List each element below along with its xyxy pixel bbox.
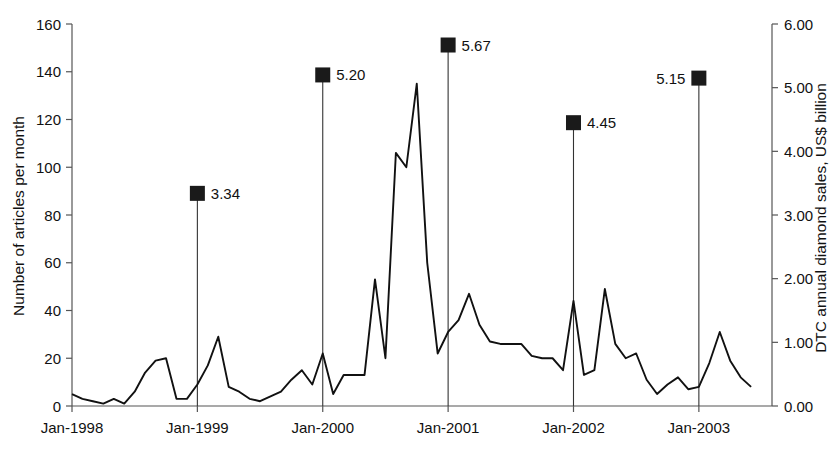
dtc-square-marker xyxy=(441,38,456,53)
right-tick-label: 4.00 xyxy=(784,143,813,160)
articles-per-month-line xyxy=(72,84,751,404)
left-axis-title: Number of articles per month xyxy=(10,116,27,316)
dtc-value-label: 3.34 xyxy=(211,185,240,202)
chart-figure: 020406080100120140160 0.001.002.003.004.… xyxy=(0,0,840,464)
dtc-value-label: 5.20 xyxy=(336,66,365,83)
left-tick-label: 140 xyxy=(36,63,61,80)
dtc-square-marker xyxy=(691,71,706,86)
x-tick-label: Jan-2003 xyxy=(668,419,731,436)
dtc-square-marker xyxy=(566,115,581,130)
x-axis-tick-labels: Jan-1998Jan-1999Jan-2000Jan-2001Jan-2002… xyxy=(41,406,730,436)
left-tick-label: 60 xyxy=(44,254,61,271)
dtc-sales-drop-lines xyxy=(197,45,698,406)
dtc-value-label: 4.45 xyxy=(587,114,616,131)
right-tick-label: 1.00 xyxy=(784,334,813,351)
left-tick-label: 80 xyxy=(44,207,61,224)
dtc-value-label: 5.15 xyxy=(656,70,685,87)
right-axis-title: DTC annual diamond sales, US$ billion xyxy=(812,83,829,353)
cropped-caption-remnant xyxy=(0,0,840,6)
x-tick-label: Jan-2002 xyxy=(542,419,605,436)
left-tick-label: 40 xyxy=(44,302,61,319)
left-axis-ticks: 020406080100120140160 xyxy=(36,16,72,415)
right-tick-label: 3.00 xyxy=(784,207,813,224)
x-tick-label: Jan-1998 xyxy=(41,419,104,436)
left-tick-label: 100 xyxy=(36,159,61,176)
dtc-square-marker xyxy=(190,186,205,201)
x-tick-label: Jan-2001 xyxy=(417,419,480,436)
left-tick-label: 20 xyxy=(44,350,61,367)
right-tick-label: 2.00 xyxy=(784,270,813,287)
left-tick-label: 120 xyxy=(36,111,61,128)
dtc-value-label: 5.67 xyxy=(462,37,491,54)
articles-polyline xyxy=(72,84,751,404)
line-chart-canvas: 020406080100120140160 0.001.002.003.004.… xyxy=(0,0,840,464)
right-tick-label: 6.00 xyxy=(784,16,813,33)
right-tick-label: 0.00 xyxy=(784,398,813,415)
right-axis-ticks: 0.001.002.003.004.005.006.00 xyxy=(772,16,813,415)
left-tick-label: 0 xyxy=(53,398,61,415)
dtc-square-marker xyxy=(315,67,330,82)
x-tick-label: Jan-1999 xyxy=(166,419,229,436)
right-tick-label: 5.00 xyxy=(784,79,813,96)
left-tick-label: 160 xyxy=(36,16,61,33)
x-tick-label: Jan-2000 xyxy=(291,419,354,436)
